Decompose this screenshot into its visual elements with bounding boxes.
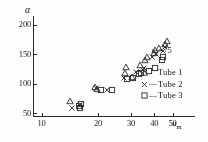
legend-label: Tube 1 [156,67,183,79]
legend-marker-icon [140,92,149,99]
legend-dash: — [149,80,156,88]
x-tick-mark [98,113,99,117]
x-tick-label: 20 [94,119,102,128]
data-point [109,87,116,94]
y-axis-title: α [25,5,30,15]
data-point [160,53,167,60]
y-axis-line [33,16,34,117]
y-tick-label-wrap: 100 [0,79,31,88]
y-tick-label: 100 [0,79,31,88]
legend-label: Tube 3 [156,90,183,102]
y-tick-label: 150 [0,50,31,59]
legend-item: —Tube 3 [140,90,183,102]
data-point [161,43,168,50]
x-axis-line [33,116,195,117]
data-point [98,86,105,93]
y-tick-label-wrap: 150 [0,50,31,59]
x-tick-label: 50 [168,119,176,128]
x-axis-title-subscript: m [177,123,182,130]
chart-figure: α um s1=75 50100150200 1020304050 Tube 1… [0,0,208,142]
legend-label: Tube 2 [156,79,183,91]
y-tick-label: 200 [0,20,31,29]
y-tick-label-wrap: 200 [0,20,31,29]
x-tick-mark [131,113,132,117]
data-point [68,105,75,112]
legend-marker-icon [140,69,149,76]
x-tick-label: 30 [127,119,135,128]
x-tick-label: 40 [150,119,158,128]
chart-legend: Tube 1—Tube 2—Tube 3 [140,67,183,102]
legend-marker-icon [140,81,149,88]
y-tick-mark [33,25,37,26]
x-tick-mark [154,113,155,117]
y-tick-label: 50 [0,109,31,118]
y-tick-mark [33,84,37,85]
x-tick-label: 10 [38,119,46,128]
legend-item: Tube 1 [140,67,183,79]
y-tick-mark [33,113,37,114]
data-point [67,98,74,105]
y-tick-mark [33,54,37,55]
data-point [76,105,83,112]
y-tick-label-wrap: 50 [0,109,31,118]
x-tick-mark [42,113,43,117]
x-tick-mark [173,113,174,117]
legend-item: —Tube 2 [140,79,183,91]
legend-dash: — [149,92,156,100]
